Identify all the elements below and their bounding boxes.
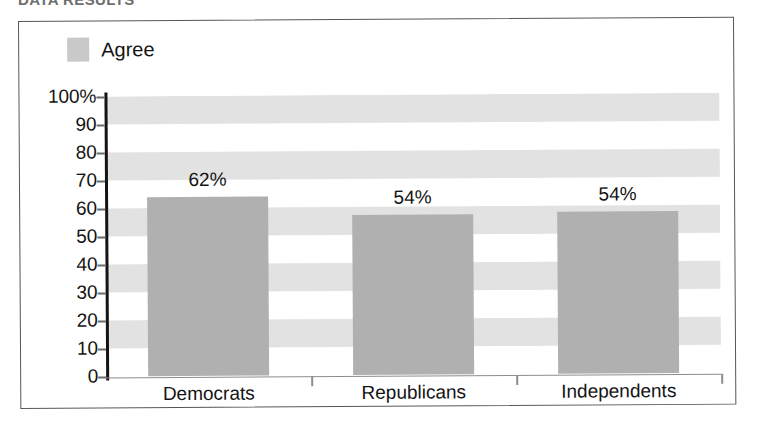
bar-group: 62%54%54%: [104, 93, 721, 377]
y-axis-labels: 0102030405060708090100%: [26, 97, 98, 377]
y-axis-tick-label: 30: [76, 282, 97, 304]
chart-frame: Agree 0102030405060708090100% 62%54%54% …: [18, 17, 736, 409]
y-axis-tick-label: 0: [88, 366, 99, 388]
y-axis-tick: [98, 292, 106, 294]
y-axis-tick: [97, 208, 105, 210]
y-axis-tick: [96, 96, 104, 98]
plot-area: 0102030405060708090100% 62%54%54%: [104, 93, 721, 377]
y-axis-tick: [98, 376, 106, 378]
bar: [352, 215, 474, 375]
y-axis-tick-label: 40: [76, 254, 97, 276]
chart-legend: Agree: [67, 37, 155, 62]
y-axis-tick: [97, 264, 105, 266]
y-axis-tick: [97, 236, 105, 238]
legend-swatch-agree: [67, 38, 89, 62]
bar: [147, 196, 269, 376]
bar-value-label: 54%: [394, 187, 432, 209]
y-axis-tick: [98, 320, 106, 322]
x-axis-category-labels: DemocratsRepublicansIndependents: [106, 380, 721, 414]
y-axis-tick-label: 60: [76, 198, 97, 220]
x-axis-tick: [721, 374, 723, 384]
y-axis-tick: [97, 152, 105, 154]
y-axis-tick-label: 80: [76, 142, 97, 164]
y-axis-tick-label: 10: [77, 338, 98, 360]
y-axis-tick-label: 90: [75, 114, 96, 136]
bar-value-label: 62%: [188, 169, 226, 191]
legend-label-agree: Agree: [101, 39, 154, 59]
y-axis-tick-label: 20: [77, 310, 98, 332]
x-axis-category-label: Democrats: [163, 383, 255, 406]
bar-value-label: 54%: [598, 183, 636, 205]
x-axis-category-label: Independents: [561, 380, 676, 403]
y-axis-tick: [98, 348, 106, 350]
y-axis-tick: [97, 124, 105, 126]
caption-text: DATA RESULTS: [18, 0, 135, 8]
x-axis-category-label: Republicans: [361, 381, 466, 404]
cropped-caption-strip: DATA RESULTS: [0, 0, 760, 11]
y-axis-tick-label: 100%: [48, 86, 97, 108]
y-axis-tick-label: 70: [76, 170, 97, 192]
bar: [557, 211, 679, 374]
y-axis-tick-label: 50: [76, 226, 97, 248]
y-axis-tick: [97, 180, 105, 182]
